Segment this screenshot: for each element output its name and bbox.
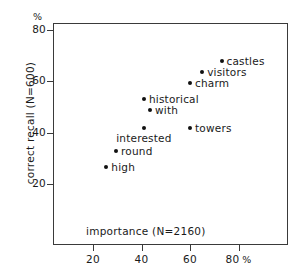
data-point-label-with: with [155, 104, 178, 116]
data-point-label-high: high [111, 161, 135, 173]
x-axis-tick-label: 60 [170, 253, 210, 265]
x-axis-tick [93, 245, 94, 251]
data-point-label-interested: interested [116, 132, 171, 144]
x-axis-tick [190, 245, 191, 251]
y-axis-unit-label: % [33, 11, 42, 22]
data-point-round [114, 149, 118, 153]
y-axis-tick-label: 40 [16, 126, 46, 138]
x-axis-tick-label: 40 [122, 253, 162, 265]
data-point-interested [142, 126, 146, 130]
y-axis-tick [47, 184, 53, 185]
y-axis-tick-label: 20 [16, 177, 46, 189]
y-axis-tick [47, 133, 53, 134]
data-point-with [148, 108, 152, 112]
scatter-chart: % correct recall (N=600) importance (N=2… [0, 0, 298, 280]
y-axis-tick [47, 81, 53, 82]
y-axis-tick [47, 30, 53, 31]
y-axis-tick-label: 60 [16, 74, 46, 86]
x-axis-tick-label: 20 [73, 253, 113, 265]
data-point-castles [220, 59, 224, 63]
x-axis-tick [239, 245, 240, 251]
x-axis-tick [142, 245, 143, 251]
data-point-charm [188, 81, 192, 85]
data-point-label-round: round [121, 145, 153, 157]
data-point-label-towers: towers [195, 122, 232, 134]
data-point-label-castles: castles [227, 55, 265, 67]
x-axis-unit-label: % [242, 254, 251, 265]
x-axis-title: importance (N=2160) [86, 225, 206, 237]
data-point-towers [188, 126, 192, 130]
y-axis-tick-label: 80 [16, 23, 46, 35]
data-point-label-charm: charm [195, 77, 229, 89]
x-axis-tick-label: 80% [219, 253, 259, 265]
